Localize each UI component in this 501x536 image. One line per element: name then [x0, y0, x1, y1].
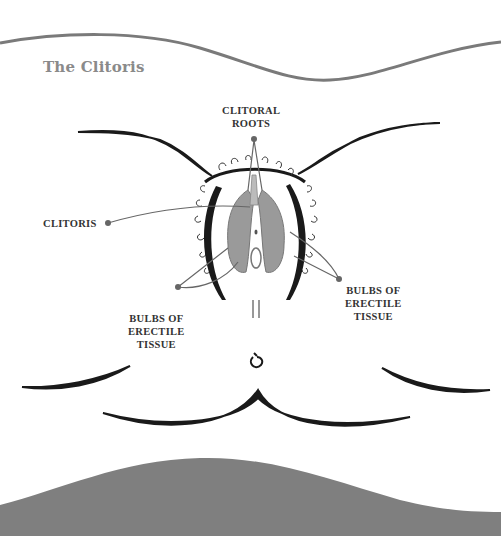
right-labium: [286, 184, 306, 300]
label-bulbs-left: BULBS OF ERECTILE TISSUE: [128, 312, 185, 351]
urethral-opening: [255, 230, 258, 235]
right-bulb-tissue: [258, 190, 284, 272]
leader-dots: [105, 136, 342, 290]
label-bulbs-right: BULBS OF ERECTILE TISSUE: [345, 284, 402, 323]
bottom-wave-band: [0, 458, 501, 536]
right-upper-curve: [298, 123, 440, 174]
leader-lines: [108, 140, 339, 288]
anus-mark: [251, 353, 262, 367]
left-labium: [204, 186, 226, 300]
right-buttock-curve: [382, 368, 490, 392]
perineum-lines: [253, 300, 259, 318]
left-upper-curve: [78, 131, 212, 176]
left-buttock-curve: [22, 366, 130, 389]
gluteal-curve: [103, 390, 410, 426]
diagram-title: The Clitoris: [43, 58, 145, 76]
label-clitoris: CLITORIS: [43, 217, 97, 230]
vaginal-opening: [251, 248, 261, 268]
anatomy-illustration: [0, 0, 501, 536]
label-clitoral-roots: CLITORAL ROOTS: [222, 104, 280, 130]
diagram-canvas: The Clitoris CLITORAL ROOTS CLITORIS BUL…: [0, 0, 501, 536]
clitoral-shaft: [250, 175, 258, 205]
